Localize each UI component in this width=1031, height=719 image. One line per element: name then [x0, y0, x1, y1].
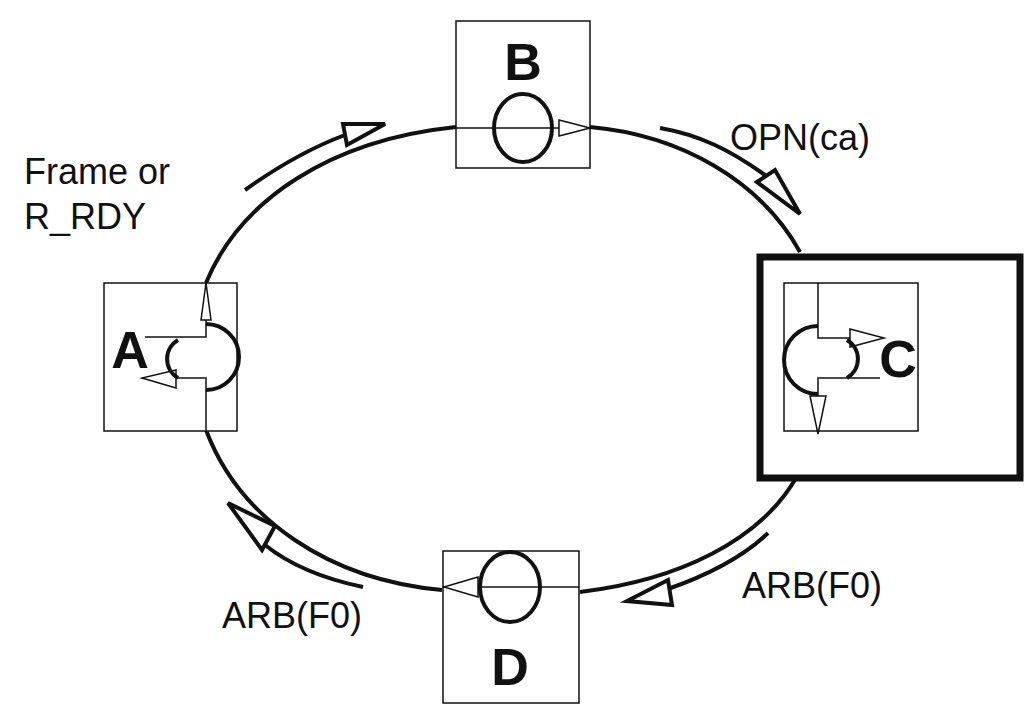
edge-label-arb-c-d: ARB(F0): [742, 565, 882, 606]
node-c-letter: C: [879, 330, 917, 388]
edge-label-opn: OPN(ca): [730, 117, 870, 158]
node-b[interactable]: B: [456, 21, 590, 168]
node-b-letter: B: [504, 33, 542, 91]
node-a-letter: A: [111, 321, 149, 379]
edge-label-frame-or: Frame or: [24, 151, 170, 192]
node-c[interactable]: C: [760, 257, 1020, 478]
edge-label-arb-d-a: ARB(F0): [222, 595, 362, 636]
node-a[interactable]: A: [104, 283, 239, 431]
ring-loop: [206, 127, 800, 592]
arrowhead-icon: [228, 503, 275, 550]
arrowhead-icon: [757, 170, 800, 214]
node-d-letter: D: [491, 638, 529, 696]
ring-diagram: B A C D: [0, 0, 1031, 719]
edge-label-r-rdy: R_RDY: [24, 196, 146, 237]
node-d[interactable]: D: [443, 551, 579, 703]
